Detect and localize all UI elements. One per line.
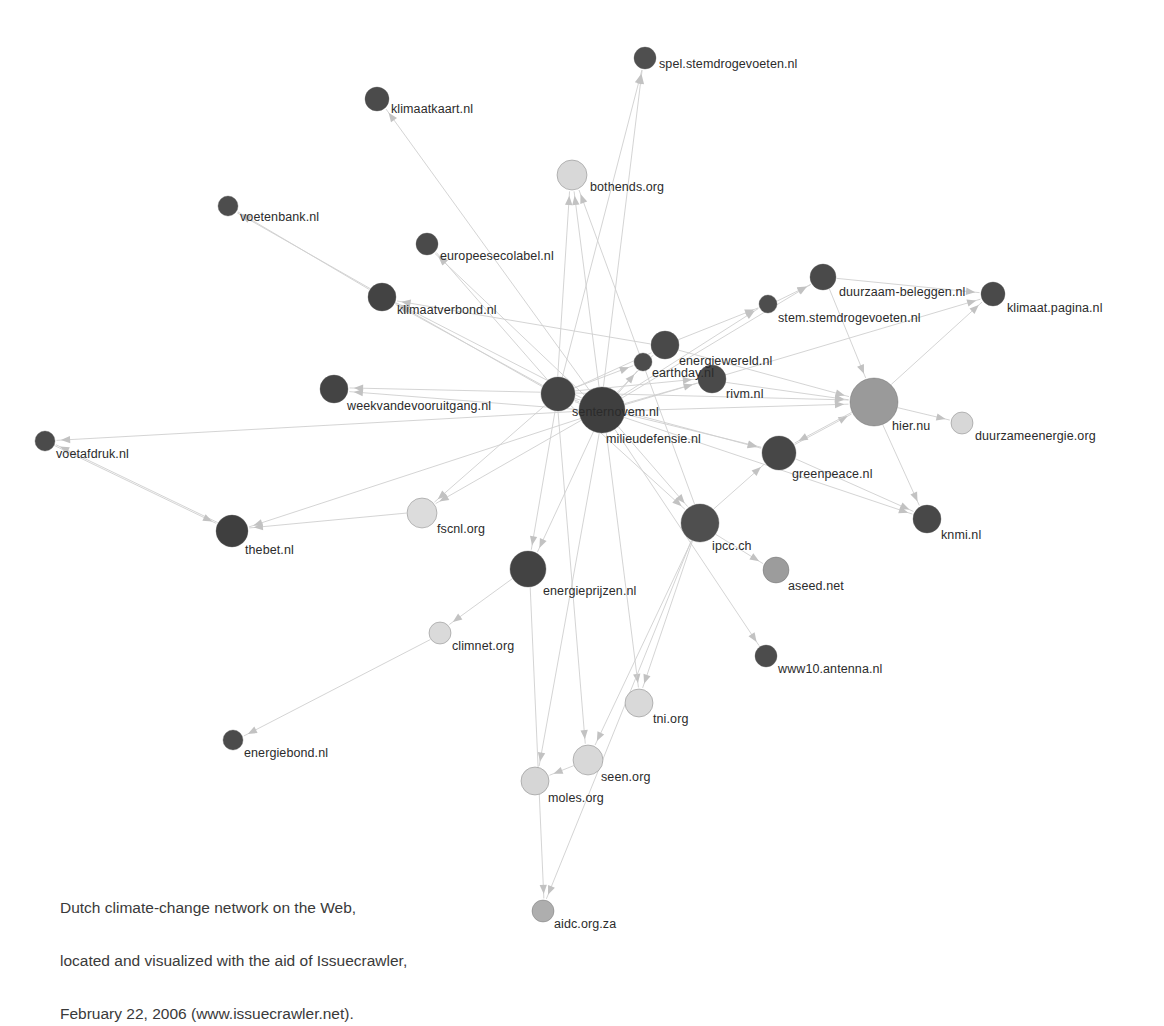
edge-arrowhead xyxy=(835,390,845,397)
graph-node-europeesecolabel-nl[interactable] xyxy=(416,233,438,255)
edge-arrowhead xyxy=(900,503,910,510)
graph-edge xyxy=(549,766,573,776)
graph-edge xyxy=(621,308,758,396)
graph-node-hier-nu[interactable] xyxy=(850,378,898,426)
edge-arrowhead xyxy=(538,752,545,762)
node-label-voetafdruk-nl: voetafdruk.nl xyxy=(56,448,129,461)
graph-node-klimaatverbond-nl[interactable] xyxy=(368,283,396,311)
graph-edge xyxy=(777,285,810,301)
node-label-europeesecolabel-nl: europeesecolabel.nl xyxy=(440,250,554,263)
node-label-spel-stemdrogevoeten-nl: spel.stemdrogevoeten.nl xyxy=(659,58,798,71)
graph-node-www10-antenna-nl[interactable] xyxy=(755,645,777,667)
graph-node-klimaatkaart-nl[interactable] xyxy=(365,87,389,111)
graph-node-tni-org[interactable] xyxy=(625,689,653,717)
node-label-stem-stemdrogevoeten-nl: stem.stemdrogevoeten.nl xyxy=(778,312,921,325)
edge-arrowhead xyxy=(683,383,693,390)
edge-arrowhead xyxy=(453,614,463,622)
graph-edge xyxy=(436,420,581,503)
graph-edge xyxy=(434,406,544,503)
graph-edge xyxy=(449,579,512,625)
graph-node-senternovem-nl[interactable] xyxy=(541,377,575,411)
graph-node-thebet-nl[interactable] xyxy=(216,515,248,547)
graph-node-duurzameenergie-org[interactable] xyxy=(951,412,973,434)
node-label-fscnl-org: fscnl.org xyxy=(437,523,485,536)
node-label-senternovem-nl: senternovem.nl xyxy=(572,406,659,419)
graph-node-earthday-nl[interactable] xyxy=(634,353,652,371)
graph-node-seen-org[interactable] xyxy=(573,745,603,775)
graph-edge xyxy=(678,308,758,340)
node-label-rivm-nl: rivm.nl xyxy=(726,388,764,401)
edge-arrowhead xyxy=(644,674,651,684)
edge-arrowhead xyxy=(799,433,809,441)
edge-arrowhead xyxy=(966,300,976,307)
edge-arrowhead xyxy=(548,885,555,895)
graph-edge xyxy=(244,640,431,736)
graph-edge xyxy=(435,254,584,395)
edge-arrowhead xyxy=(857,364,864,374)
edge-arrowhead xyxy=(619,367,629,374)
graph-node-energieprijzen-nl[interactable] xyxy=(510,551,546,587)
graph-node-energiebond-nl[interactable] xyxy=(223,730,243,750)
graph-node-aseed-net[interactable] xyxy=(763,557,789,583)
node-label-bothends-org: bothends.org xyxy=(590,181,664,194)
graph-edge xyxy=(829,289,865,378)
graph-edge xyxy=(56,411,578,443)
graph-node-weekvandevooruitgang-nl[interactable] xyxy=(320,375,348,403)
edge-arrowhead xyxy=(530,536,537,546)
edge-arrowhead xyxy=(554,767,564,774)
node-label-www10-antenna-nl: www10.antenna.nl xyxy=(778,663,882,676)
graph-node-voetafdruk-nl[interactable] xyxy=(35,431,55,451)
node-label-aidc-org-za: aidc.org.za xyxy=(554,918,616,931)
graph-edge xyxy=(530,587,547,898)
edge-arrowhead xyxy=(248,726,258,734)
edges-layer xyxy=(54,70,982,899)
edge-arrowhead xyxy=(565,196,572,205)
graph-edge xyxy=(538,433,599,766)
graph-node-fscnl-org[interactable] xyxy=(407,498,437,528)
node-label-klimaatverbond-nl: klimaatverbond.nl xyxy=(397,304,497,317)
graph-edge xyxy=(795,412,852,443)
edge-arrowhead xyxy=(202,514,212,521)
graph-node-aidc-org-za[interactable] xyxy=(532,900,554,922)
graph-node-moles-org[interactable] xyxy=(521,767,549,795)
node-label-climnet-org: climnet.org xyxy=(452,640,514,653)
node-label-duurzaam-beleggen-nl: duurzaam-beleggen.nl xyxy=(839,286,965,299)
graph-edge xyxy=(606,433,640,687)
node-label-ipcc-ch: ipcc.ch xyxy=(712,540,752,553)
node-label-thebet-nl: thebet.nl xyxy=(245,544,294,557)
graph-edge xyxy=(618,371,637,393)
graph-node-ipcc-ch[interactable] xyxy=(681,504,719,542)
graph-node-spel-stemdrogevoeten-nl[interactable] xyxy=(634,47,656,69)
node-label-aseed-net: aseed.net xyxy=(788,580,844,593)
node-label-energieprijzen-nl: energieprijzen.nl xyxy=(543,585,636,598)
graph-edge xyxy=(249,513,406,530)
node-label-voetenbank-nl: voetenbank.nl xyxy=(240,211,319,224)
graph-node-energiewereld-nl[interactable] xyxy=(651,331,679,359)
graph-node-voetenbank-nl[interactable] xyxy=(218,196,238,216)
graph-node-stem-stemdrogevoeten-nl[interactable] xyxy=(759,295,777,313)
graph-node-bothends-org[interactable] xyxy=(557,160,587,190)
edge-arrowhead xyxy=(61,436,70,443)
node-label-seen-org: seen.org xyxy=(601,771,650,784)
node-label-greenpeace-nl: greenpeace.nl xyxy=(792,468,873,481)
node-label-duurzameenergie-org: duurzameenergie.org xyxy=(975,430,1096,443)
graph-node-climnet-org[interactable] xyxy=(429,622,451,644)
node-label-earthday-nl: earthday.nl xyxy=(652,367,714,380)
graph-node-knmi-nl[interactable] xyxy=(913,505,941,533)
node-label-milieudefensie-nl: milieudefensie.nl xyxy=(606,433,701,446)
graph-node-duurzaam-beleggen-nl[interactable] xyxy=(810,264,836,290)
edge-arrowhead xyxy=(910,492,917,502)
caption-line-1: Dutch climate-change network on the Web, xyxy=(60,895,407,922)
graph-node-klimaat-pagina-nl[interactable] xyxy=(981,282,1005,306)
node-label-moles-org: moles.org xyxy=(548,792,604,805)
caption-line-2: located and visualized with the aid of I… xyxy=(60,948,407,975)
edge-arrowhead xyxy=(749,632,757,642)
nodes-layer xyxy=(35,47,1005,922)
graph-node-greenpeace-nl[interactable] xyxy=(762,436,796,470)
edge-arrowhead xyxy=(747,441,757,448)
edge-arrowhead xyxy=(572,196,579,206)
edge-arrowhead xyxy=(966,288,976,295)
edge-arrowhead xyxy=(635,74,642,84)
